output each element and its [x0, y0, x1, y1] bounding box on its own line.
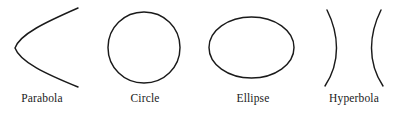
hyperbola-right-branch-curve — [372, 10, 384, 86]
circle-curve — [108, 12, 180, 83]
circle-label: Circle — [131, 92, 160, 104]
parabola-label: Parabola — [21, 92, 62, 104]
ellipse-curve — [209, 17, 294, 78]
ellipse-label: Ellipse — [237, 92, 270, 104]
parabola-curve — [15, 8, 78, 87]
hyperbola-label: Hyperbola — [329, 92, 379, 104]
conic-sections-figure: Parabola Circle Ellipse Hyperbola — [0, 0, 400, 115]
hyperbola-left-branch-curve — [325, 10, 337, 86]
